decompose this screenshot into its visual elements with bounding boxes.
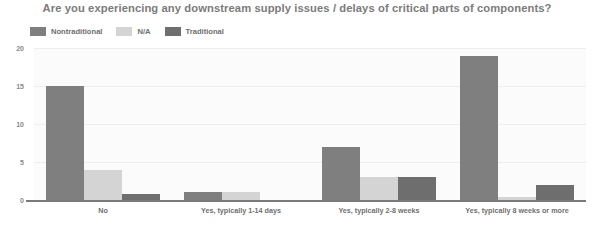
legend-swatch-icon [165, 27, 181, 36]
bar[interactable] [360, 177, 398, 200]
bar[interactable] [322, 147, 360, 200]
x-axis-category-label: No [98, 206, 108, 215]
chart-legend: Nontraditional N/A Traditional [30, 27, 224, 36]
legend-swatch-icon [116, 27, 132, 36]
y-axis-tick-label: 20 [16, 45, 24, 52]
x-axis-category-label: Yes, typically 1-14 days [201, 206, 281, 215]
bar[interactable] [84, 170, 122, 200]
bar-chart: Are you experiencing any downstream supp… [0, 0, 594, 236]
bar-group [460, 48, 574, 200]
bar-group [184, 48, 298, 200]
legend-item-traditional[interactable]: Traditional [165, 27, 224, 36]
y-axis: 05101520 [0, 48, 30, 200]
x-axis-category-label: Yes, typically 2-8 weeks [338, 206, 419, 215]
y-axis-tick-label: 0 [20, 197, 24, 204]
legend-label: Traditional [186, 27, 224, 36]
bar[interactable] [184, 192, 222, 200]
legend-label: Nontraditional [51, 27, 102, 36]
y-axis-tick-label: 5 [20, 159, 24, 166]
y-axis-tick-label: 15 [16, 83, 24, 90]
legend-item-nontraditional[interactable]: Nontraditional [30, 27, 102, 36]
x-axis-line [26, 200, 586, 202]
x-axis-labels: NoYes, typically 1-14 daysYes, typically… [34, 206, 586, 222]
legend-swatch-icon [30, 27, 46, 36]
legend-label: N/A [137, 27, 150, 36]
y-axis-tick-label: 10 [16, 121, 24, 128]
legend-item-na[interactable]: N/A [116, 27, 150, 36]
bar[interactable] [536, 185, 574, 200]
chart-title: Are you experiencing any downstream supp… [0, 2, 594, 14]
bar[interactable] [222, 192, 260, 200]
bar[interactable] [46, 86, 84, 200]
x-axis-category-label: Yes, typically 8 weeks or more [465, 206, 568, 215]
bar-group [322, 48, 436, 200]
bar[interactable] [398, 177, 436, 200]
bars-layer [34, 48, 586, 200]
bar[interactable] [460, 56, 498, 200]
bar-group [46, 48, 160, 200]
